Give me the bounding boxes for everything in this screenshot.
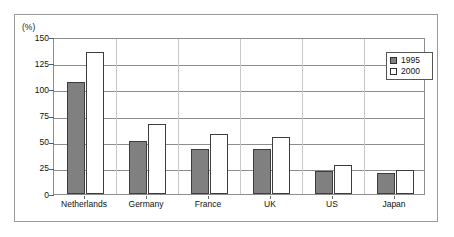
bar-japan-1995 — [377, 173, 395, 194]
y-axis-tick-label: 125 — [15, 60, 49, 69]
y-axis-tick-label: 75 — [15, 112, 49, 121]
y-axis-tick-label: 25 — [15, 164, 49, 173]
legend-label-1995: 1995 — [401, 56, 420, 65]
x-axis-tick-label: Netherlands — [53, 199, 115, 210]
y-axis-tick-label: 50 — [15, 138, 49, 147]
legend-item-1995: 1995 — [390, 55, 429, 66]
plot-area — [53, 38, 425, 195]
x-axis-tick-mark — [84, 196, 85, 199]
x-axis-tick-mark — [208, 196, 209, 199]
y-axis-tick-label: 150 — [15, 34, 49, 43]
bar-uk-2000 — [272, 137, 290, 194]
bar-uk-1995 — [253, 149, 271, 194]
category-separator — [240, 39, 241, 194]
x-axis-tick-label: UK — [239, 199, 301, 210]
y-axis-tick-mark — [49, 90, 54, 91]
gridline — [54, 91, 424, 92]
legend-swatch-2000-icon — [390, 68, 397, 75]
x-axis-tick-mark — [394, 196, 395, 199]
x-axis-tick-mark — [332, 196, 333, 199]
category-separator — [116, 39, 117, 194]
bar-netherlands-1995 — [67, 82, 85, 194]
x-axis-tick-labels: NetherlandsGermanyFranceUKUSJapan — [53, 199, 425, 217]
x-axis-tick-label: France — [177, 199, 239, 210]
bar-germany-1995 — [129, 141, 147, 194]
gridline — [54, 65, 424, 66]
category-separator — [302, 39, 303, 194]
y-axis-tick-label: 100 — [15, 86, 49, 95]
gridline — [54, 170, 424, 171]
x-axis-tick-label: Japan — [363, 199, 425, 210]
bar-france-1995 — [191, 149, 209, 194]
y-axis-tick-mark — [49, 38, 54, 39]
bar-chart-figure: (%) 0255075100125150 NetherlandsGermanyF… — [0, 0, 454, 237]
bar-germany-2000 — [148, 124, 166, 194]
x-axis-tick-label: US — [301, 199, 363, 210]
bar-us-2000 — [334, 165, 352, 194]
bar-france-2000 — [210, 134, 228, 194]
x-axis-tick-mark — [270, 196, 271, 199]
y-axis-tick-label: 0 — [15, 191, 49, 200]
chart-legend: 1995 2000 — [386, 52, 433, 80]
y-axis-tick-mark — [49, 169, 54, 170]
y-axis-tick-mark — [49, 195, 54, 196]
x-axis-tick-mark — [146, 196, 147, 199]
category-separator — [364, 39, 365, 194]
legend-label-2000: 2000 — [401, 67, 420, 76]
y-axis-tick-mark — [49, 143, 54, 144]
bar-japan-2000 — [396, 170, 414, 194]
y-axis-tick-labels: 0255075100125150 — [14, 0, 49, 237]
legend-item-2000: 2000 — [390, 66, 429, 77]
gridline — [54, 144, 424, 145]
bar-netherlands-2000 — [86, 52, 104, 194]
legend-swatch-1995-icon — [390, 57, 397, 64]
gridline — [54, 118, 424, 119]
category-separator — [178, 39, 179, 194]
y-axis-tick-mark — [49, 117, 54, 118]
y-axis-tick-mark — [49, 64, 54, 65]
bar-us-1995 — [315, 171, 333, 194]
x-axis-tick-label: Germany — [115, 199, 177, 210]
